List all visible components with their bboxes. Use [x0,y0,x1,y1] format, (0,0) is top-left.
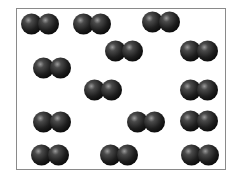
atom [117,145,138,166]
molecule [142,12,180,33]
atom [144,112,165,133]
atom [197,80,218,101]
atom [198,145,219,166]
atom [197,111,218,132]
molecule [180,41,218,62]
molecule [21,14,59,35]
molecule [33,112,71,133]
molecule [127,112,165,133]
atom [50,58,71,79]
molecule [31,145,69,166]
molecule [180,80,218,101]
atom [50,112,71,133]
atom [197,41,218,62]
atom [48,145,69,166]
molecule [181,145,219,166]
atom [159,12,180,33]
molecule-scene [0,0,237,175]
molecule [100,145,138,166]
molecule [180,111,218,132]
molecule [105,41,143,62]
atom [38,14,59,35]
molecule [84,80,122,101]
atom [90,14,111,35]
atom [101,80,122,101]
molecule [33,58,71,79]
atom [122,41,143,62]
molecule [73,14,111,35]
